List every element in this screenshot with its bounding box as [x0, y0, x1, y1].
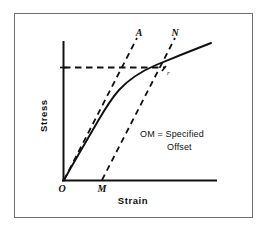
- x-axis-title: Strain: [118, 195, 149, 206]
- label-O: O: [58, 183, 65, 194]
- figure-frame: A N r O M Stress Strain OM = Specified O…: [14, 13, 253, 218]
- label-A: A: [135, 27, 143, 38]
- elastic-slope-line-OA: [64, 38, 137, 180]
- figure-root: A N r O M Stress Strain OM = Specified O…: [0, 0, 267, 234]
- offset-note-line2: Offset: [167, 142, 192, 152]
- label-N: N: [170, 27, 179, 38]
- label-r: r: [167, 69, 170, 77]
- stress-strain-chart: A N r O M Stress Strain OM = Specified O…: [15, 14, 254, 219]
- y-axis-title: Stress: [38, 99, 49, 132]
- label-M: M: [97, 183, 108, 194]
- offset-line-MN: [102, 38, 175, 180]
- offset-note-line1: OM = Specified: [140, 129, 204, 139]
